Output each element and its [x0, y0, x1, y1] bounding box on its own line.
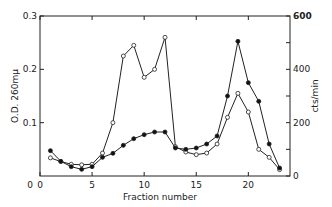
data-point	[101, 151, 105, 155]
y-right-tick-label: 200	[293, 118, 310, 128]
data-point	[257, 147, 261, 151]
x-tick-label: 20	[243, 180, 255, 190]
data-point	[257, 99, 261, 103]
chart: 0510152000.10.20.30200400600Fraction num…	[0, 0, 332, 207]
data-point	[142, 75, 146, 79]
x-tick-label: 5	[89, 180, 95, 190]
data-point	[215, 134, 219, 138]
x-axis-label: Fraction number	[123, 192, 197, 202]
data-point	[153, 67, 157, 71]
data-point	[80, 167, 84, 171]
data-point	[132, 137, 136, 141]
y-right-tick-label: 400	[293, 64, 310, 74]
data-point	[226, 94, 230, 98]
x-tick-label: 0	[37, 180, 43, 190]
series-line	[50, 41, 279, 169]
y-axis-label: O.D. 260mμ	[10, 69, 20, 123]
data-point	[90, 165, 94, 169]
series-line	[50, 37, 279, 169]
data-point	[194, 146, 198, 150]
data-point	[215, 142, 219, 146]
y-right-axis-label: cts/min	[310, 79, 320, 112]
data-point	[236, 91, 240, 95]
data-point	[132, 43, 136, 47]
y-tick-label: 0	[27, 180, 33, 190]
data-point	[111, 121, 115, 125]
data-point	[101, 155, 105, 159]
data-point	[236, 39, 240, 43]
data-point	[163, 35, 167, 39]
data-point	[111, 151, 115, 155]
data-point	[226, 115, 230, 119]
x-tick-label: 15	[191, 180, 202, 190]
data-point	[80, 163, 84, 167]
data-point	[205, 151, 209, 155]
data-point	[267, 142, 271, 146]
data-point	[153, 130, 157, 134]
y-tick-label: 0.1	[23, 118, 37, 128]
data-point	[121, 54, 125, 58]
y-tick-label: 0.3	[23, 11, 37, 21]
data-point	[184, 147, 188, 151]
data-point	[194, 153, 198, 157]
data-point	[246, 81, 250, 85]
data-point	[205, 142, 209, 146]
data-point	[267, 155, 271, 159]
y-right-tick-label: 0	[293, 171, 299, 181]
y-right-tick-label: 600	[293, 11, 312, 21]
data-point	[121, 143, 125, 147]
data-point	[59, 159, 63, 163]
data-point	[173, 146, 177, 150]
data-point	[163, 130, 167, 134]
y-tick-label: 0.2	[23, 64, 37, 74]
data-point	[278, 166, 282, 170]
data-point	[48, 156, 52, 160]
data-point	[48, 149, 52, 153]
data-point	[142, 133, 146, 137]
data-point	[69, 165, 73, 169]
x-tick-label: 10	[138, 180, 150, 190]
data-point	[246, 110, 250, 114]
